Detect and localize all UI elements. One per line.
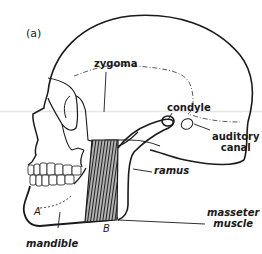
auditory-canal-shape	[179, 117, 194, 132]
mandible-leader	[58, 212, 60, 228]
label-auditory-canal: auditory canal	[212, 131, 260, 153]
label-ramus: ramus	[154, 165, 189, 176]
label-point-b: B	[103, 223, 110, 234]
label-masseter-line2: muscle	[207, 218, 259, 229]
label-masseter-line1: masseter	[207, 207, 259, 218]
auditory-leader	[194, 124, 210, 130]
label-point-a: A	[34, 206, 41, 217]
upper-teeth	[28, 163, 81, 175]
skull-diagram: (a) zygoma condyle auditory canal ramus …	[0, 0, 262, 254]
label-masseter-muscle: masseter muscle	[207, 207, 259, 229]
orbit-inner	[64, 96, 70, 118]
panel-label: (a)	[26, 28, 41, 39]
masseter-leader	[118, 220, 205, 224]
line-a-dashed	[40, 195, 72, 208]
orbit-outline	[48, 78, 78, 130]
label-mandible: mandible	[26, 238, 78, 249]
lower-teeth	[30, 175, 74, 186]
label-auditory-line1: auditory	[212, 131, 260, 142]
label-zygoma: zygoma	[94, 58, 138, 69]
label-condyle: condyle	[167, 102, 211, 113]
masseter-muscle	[85, 140, 118, 222]
zygomatic-arch	[76, 96, 160, 146]
ramus-leader	[133, 169, 152, 172]
face-profile	[32, 92, 48, 162]
zygoma-leader	[104, 72, 106, 112]
label-auditory-line2: canal	[212, 142, 260, 153]
temporal-line	[74, 65, 240, 122]
